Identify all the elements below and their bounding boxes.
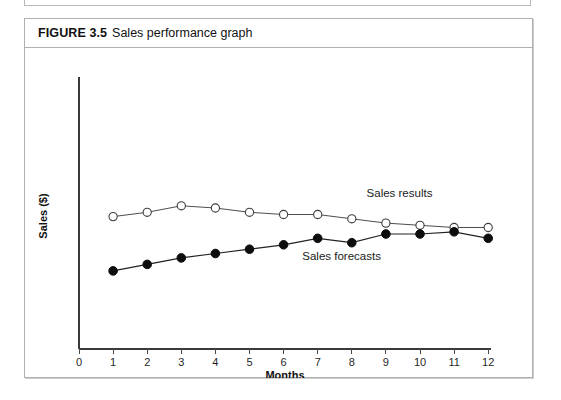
x-axis-ticks	[79, 349, 488, 354]
plot-area: 0123456789101112 Months Sales ($) Sales …	[25, 48, 532, 377]
data-point	[348, 238, 357, 247]
data-point	[245, 208, 253, 216]
x-tick-label-8: 8	[349, 356, 355, 368]
data-point	[416, 230, 425, 239]
x-axis-tick-labels: 0123456789101112	[76, 356, 494, 368]
data-point	[314, 210, 322, 218]
data-series-group	[109, 202, 493, 276]
series-line-sales-results	[113, 206, 488, 228]
data-point	[109, 213, 117, 221]
x-tick-label-7: 7	[315, 356, 321, 368]
figure-number: FIGURE 3.5	[38, 26, 107, 40]
x-tick-label-9: 9	[383, 356, 389, 368]
x-tick-label-4: 4	[212, 356, 218, 368]
data-point	[484, 234, 493, 243]
x-tick-label-5: 5	[246, 356, 252, 368]
series-label-sales-forecasts: Sales forecasts	[302, 250, 381, 262]
data-point	[382, 230, 391, 239]
x-tick-label-10: 10	[414, 356, 426, 368]
series-label-sales-results: Sales results	[367, 187, 433, 199]
partial-box-above	[24, 0, 531, 6]
data-point	[382, 219, 390, 227]
data-point	[143, 260, 152, 269]
sales-performance-chart: 0123456789101112 Months Sales ($) Sales …	[25, 48, 532, 378]
data-point	[211, 249, 220, 258]
x-axis-title: Months	[265, 369, 304, 378]
x-tick-label-0: 0	[76, 356, 82, 368]
data-point	[484, 223, 492, 231]
figure-caption: FIGURE 3.5Sales performance graph	[25, 19, 532, 48]
figure-panel: FIGURE 3.5Sales performance graph 012345…	[24, 18, 533, 378]
data-point	[279, 241, 288, 250]
x-tick-label-2: 2	[144, 356, 150, 368]
x-tick-label-3: 3	[178, 356, 184, 368]
data-point	[177, 254, 186, 263]
data-point	[211, 204, 219, 212]
x-tick-label-11: 11	[448, 356, 459, 368]
data-point	[313, 234, 322, 243]
data-point	[177, 202, 185, 210]
data-point	[109, 267, 118, 276]
y-axis-title: Sales ($)	[37, 193, 49, 239]
data-point	[416, 221, 424, 229]
x-tick-label-12: 12	[482, 356, 494, 368]
series-line-sales-forecasts	[113, 232, 488, 271]
data-point	[348, 215, 356, 223]
data-point	[143, 208, 151, 216]
x-tick-label-6: 6	[281, 356, 287, 368]
x-tick-label-1: 1	[110, 356, 116, 368]
data-point	[245, 245, 254, 254]
data-point	[450, 228, 459, 237]
data-point	[280, 210, 288, 218]
figure-title: Sales performance graph	[112, 26, 252, 40]
